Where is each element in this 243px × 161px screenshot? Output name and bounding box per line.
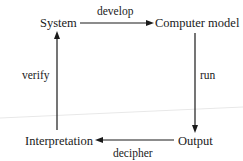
edge-label-develop: develop — [97, 5, 133, 18]
arrow-decipher — [95, 137, 174, 143]
edge-label-decipher: decipher — [113, 147, 153, 160]
node-computer-model: Computer model — [155, 16, 239, 30]
edge-label-run: run — [200, 69, 215, 82]
node-interpretation: Interpretation — [25, 134, 93, 148]
arrow-run — [192, 33, 198, 133]
node-output: Output — [178, 134, 213, 148]
scan-artifact-line — [0, 107, 243, 118]
edge-label-verify: verify — [22, 69, 49, 82]
node-system: System — [40, 16, 77, 30]
arrow-develop — [80, 20, 154, 26]
